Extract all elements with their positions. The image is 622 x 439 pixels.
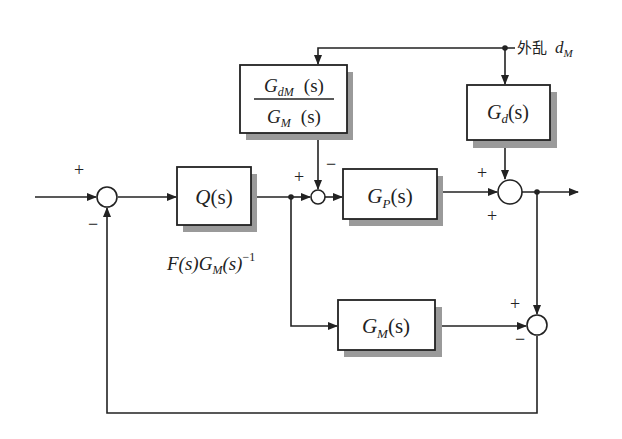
block-q: Q(s)	[177, 167, 257, 232]
disturbance-label: 外乱dM	[517, 38, 574, 59]
feedback-line	[107, 208, 537, 413]
branch-point-disturbance	[502, 45, 508, 51]
summing-junction-2	[311, 190, 325, 204]
block-gm: GM(s)	[338, 300, 442, 357]
sign-sum1-plus: +	[74, 160, 84, 180]
sign-sum2-plus: +	[294, 167, 304, 187]
sign-sum4-plus: +	[510, 294, 520, 314]
disturbance-line	[318, 48, 515, 64]
sign-sum3-plus-top: +	[477, 163, 487, 183]
block-gd: Gd(s)	[467, 85, 557, 148]
branch-point-q	[288, 194, 294, 200]
branch-point-output	[534, 189, 540, 195]
summing-junction-4	[527, 315, 547, 335]
block-diagram: Q(s) GP(s) GM(s) Gd(s) GdM(s) GM(s)	[0, 0, 622, 439]
branch-to-gm-line	[291, 197, 337, 326]
sign-sum4-minus: −	[515, 329, 525, 349]
q-formula-label: F(s)GM(s)−1	[166, 250, 255, 277]
sign-sum3-plus-bottom: +	[487, 206, 497, 226]
svg-text:Gd(s): Gd(s)	[487, 101, 529, 126]
sign-sum2-minus: −	[326, 154, 336, 174]
sign-sum1-minus: −	[88, 214, 98, 234]
svg-text:Q(s): Q(s)	[195, 185, 232, 209]
summing-junction-1	[97, 187, 117, 207]
block-gdm-over-gm: GdM(s) GM(s)	[240, 65, 353, 140]
summing-junction-3	[498, 180, 522, 204]
block-gp: GP(s)	[343, 169, 443, 226]
svg-text:GP(s): GP(s)	[367, 184, 412, 211]
block-q-label: Q	[195, 185, 210, 209]
